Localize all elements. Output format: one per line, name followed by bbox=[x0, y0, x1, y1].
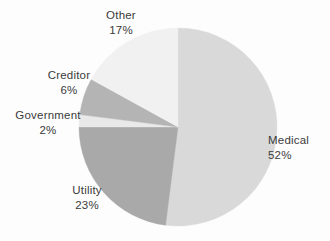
slice-label-government-value: 2% bbox=[0, 123, 96, 138]
slice-label-other: Other 17% bbox=[78, 8, 164, 37]
pie-slice-medical bbox=[166, 28, 277, 226]
pie-chart-figure: Other 17% Creditor 6% Government 2% Util… bbox=[0, 0, 330, 241]
slice-label-medical: Medical 52% bbox=[268, 133, 328, 162]
slice-label-government: Government 2% bbox=[0, 108, 96, 137]
slice-label-government-name: Government bbox=[0, 108, 96, 123]
slice-label-utility-value: 23% bbox=[44, 198, 130, 213]
slice-label-creditor: Creditor 6% bbox=[26, 68, 112, 97]
slice-label-creditor-name: Creditor bbox=[26, 68, 112, 83]
slice-label-utility-name: Utility bbox=[44, 183, 130, 198]
slice-label-creditor-value: 6% bbox=[26, 83, 112, 98]
slice-label-medical-value: 52% bbox=[268, 148, 328, 163]
slice-label-utility: Utility 23% bbox=[44, 183, 130, 212]
slice-label-medical-name: Medical bbox=[268, 133, 328, 148]
slice-label-other-value: 17% bbox=[78, 23, 164, 38]
slice-label-other-name: Other bbox=[78, 8, 164, 23]
